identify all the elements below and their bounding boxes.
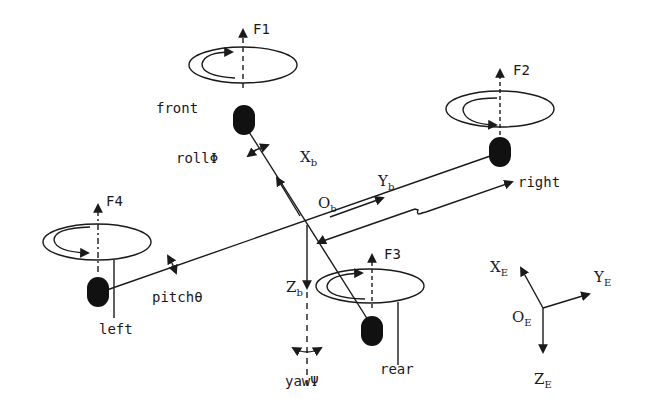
label-left: left — [99, 322, 133, 336]
arm-length-line — [320, 182, 512, 242]
pitch-arrow — [172, 263, 176, 273]
ze-label: ZE — [534, 372, 552, 387]
yb-axis-line — [104, 154, 496, 291]
motor-right — [489, 137, 511, 167]
motor-rear — [361, 316, 383, 346]
rotor-left-disc — [43, 224, 151, 260]
yb-arrow — [330, 198, 383, 217]
roll-arrow — [251, 145, 268, 152]
zb-label: Zb — [286, 280, 303, 295]
yaw-label: yawΨ — [285, 374, 319, 388]
label-rear: rear — [380, 362, 414, 376]
pitch-label: pitchθ — [152, 290, 203, 304]
xb-arrow — [277, 178, 300, 216]
rotor-rear-disc — [316, 269, 424, 303]
yb-label: Yb — [378, 174, 394, 189]
force-label-f4: F4 — [106, 194, 123, 208]
roll-label: rollΦ — [176, 151, 218, 165]
force-label-f2: F2 — [513, 63, 530, 77]
motor-front — [233, 105, 255, 135]
xe-label: XE — [490, 260, 508, 275]
force-label-f1: F1 — [253, 22, 270, 36]
ob-label: Ob — [318, 196, 337, 211]
ye-label: YE — [594, 270, 611, 285]
xb-label: Xb — [300, 150, 317, 165]
force-label-f3: F3 — [384, 247, 401, 261]
ye-axis — [543, 294, 589, 308]
oe-label: OE — [512, 310, 532, 325]
motor-left — [87, 277, 109, 307]
xe-axis — [521, 268, 543, 308]
label-front: front — [156, 101, 198, 115]
label-right: right — [518, 175, 560, 189]
